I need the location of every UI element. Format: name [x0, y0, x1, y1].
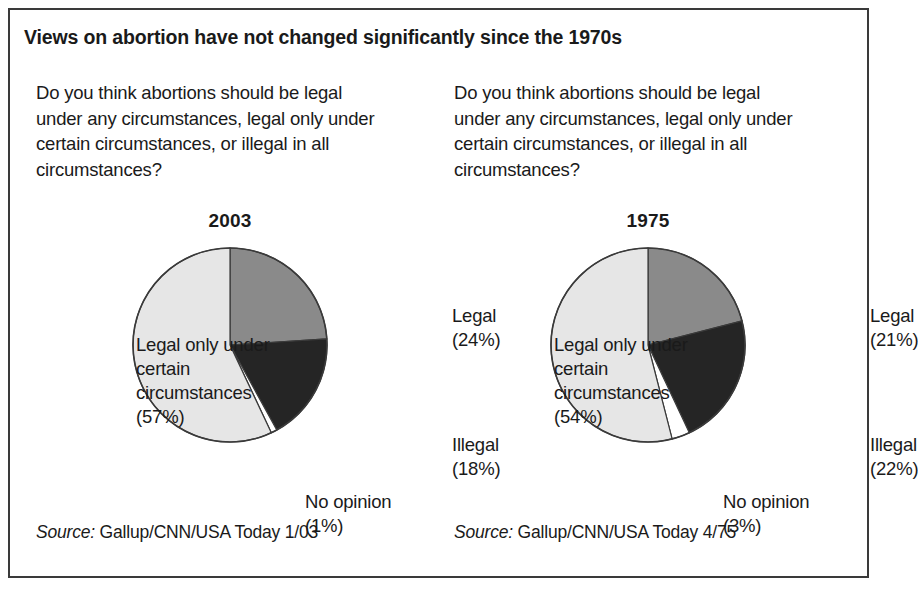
slice-label-legal-pct: (21%)	[870, 328, 918, 352]
slice-label-certain-pct: (57%)	[136, 405, 286, 429]
pie-chart-1975: Legal (21%) Illegal (22%) No opinion (3%…	[548, 245, 748, 445]
pie-slice	[230, 248, 327, 345]
slice-label-illegal-text: Illegal	[870, 434, 917, 455]
slice-label-legal-text: Legal	[870, 305, 914, 326]
slice-label-illegal: Illegal (22%)	[870, 433, 918, 481]
slice-label-illegal-pct: (22%)	[870, 457, 918, 481]
slice-label-certain: Legal only under certain circumstances (…	[554, 333, 704, 429]
slice-label-no-opinion-text: No opinion	[723, 491, 809, 512]
survey-question: Do you think abortions should be legal u…	[36, 80, 386, 182]
source-label: Source:	[36, 522, 95, 542]
source-label: Source:	[454, 522, 513, 542]
figure-title: Views on abortion have not changed signi…	[24, 26, 622, 49]
panel-2003: Do you think abortions should be legal u…	[20, 70, 440, 570]
slice-label-certain-text: Legal only under certain circumstances	[554, 334, 688, 403]
slice-label-certain-text: Legal only under certain circumstances	[136, 334, 270, 403]
figure-frame: Views on abortion have not changed signi…	[8, 8, 869, 578]
pie-chart-2003: Legal (24%) Illegal (18%) No opinion (1%…	[130, 245, 330, 445]
chart-year-heading: 2003	[20, 210, 440, 232]
source-line: Source: Gallup/CNN/USA Today 1/03	[36, 522, 318, 543]
panel-1975: Do you think abortions should be legal u…	[438, 70, 858, 570]
slice-label-certain: Legal only under certain circumstances (…	[136, 333, 286, 429]
survey-question: Do you think abortions should be legal u…	[454, 80, 804, 182]
chart-year-heading: 1975	[438, 210, 858, 232]
source-text: Gallup/CNN/USA Today 4/75	[518, 522, 736, 542]
slice-label-no-opinion-text: No opinion	[305, 491, 391, 512]
slice-label-legal: Legal (21%)	[870, 304, 918, 352]
source-text: Gallup/CNN/USA Today 1/03	[100, 522, 318, 542]
source-line: Source: Gallup/CNN/USA Today 4/75	[454, 522, 736, 543]
slice-label-certain-pct: (54%)	[554, 405, 704, 429]
